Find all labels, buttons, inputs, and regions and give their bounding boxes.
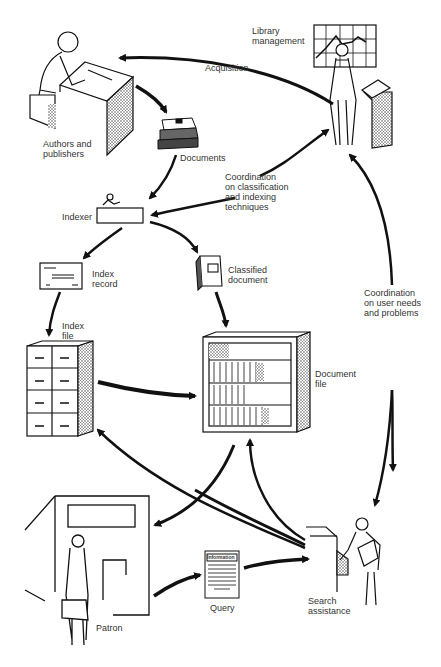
arrow-indexer-to-classified (150, 222, 197, 252)
label-index-record: Index record (92, 269, 118, 289)
classified-document-illustration (196, 256, 222, 290)
patron-illustration (25, 496, 149, 645)
arrow-search-to-document-file (250, 440, 305, 540)
query-doc-heading: Information (207, 554, 235, 560)
documents-illustration (158, 118, 198, 149)
arrow-documents-to-indexer (150, 155, 176, 198)
label-coord-classification: Coordination on classification and index… (225, 172, 289, 212)
search-assistance-illustration (306, 518, 380, 605)
label-coord-user-needs: Coordination on user needs and problems (364, 288, 421, 318)
index-file-illustration (27, 341, 93, 436)
authors-illustration (30, 32, 133, 155)
label-indexer: Indexer (62, 212, 92, 222)
arrow-coord-user-needs-down (375, 390, 392, 505)
arrow-index-record-to-file (49, 292, 60, 335)
library-management-illustration (314, 25, 392, 148)
label-search-assistance: Search assistance (308, 596, 351, 616)
label-documents: Documents (180, 153, 226, 163)
arrow-query-to-search (244, 559, 308, 568)
label-classified-document: Classified document (228, 265, 268, 285)
arrow-patron-to-query (154, 575, 200, 596)
label-query: Query (210, 603, 235, 613)
library-flow-diagram: Authors and publishers Library managemen… (0, 0, 441, 667)
arrow-indexer-to-index-record (84, 228, 122, 258)
label-library-management: Library management (252, 26, 305, 46)
label-document-file: Document file (315, 369, 356, 389)
indexer-illustration (97, 194, 143, 223)
label-index-file: Index file (62, 321, 84, 341)
index-record-illustration (40, 263, 82, 289)
arrow-document-file-to-patron (155, 445, 234, 525)
label-authors: Authors and publishers (43, 139, 92, 159)
document-file-illustration (203, 332, 310, 432)
label-patron: Patron (96, 623, 123, 633)
label-acquisition: Acquisition (205, 63, 249, 73)
arrow-search-patron-thick (195, 490, 305, 545)
flow-arrows (49, 58, 393, 596)
arrow-index-file-to-document-file (98, 382, 195, 396)
arrow-classified-to-document-file (216, 292, 226, 326)
arrow-authors-to-documents (136, 86, 166, 112)
